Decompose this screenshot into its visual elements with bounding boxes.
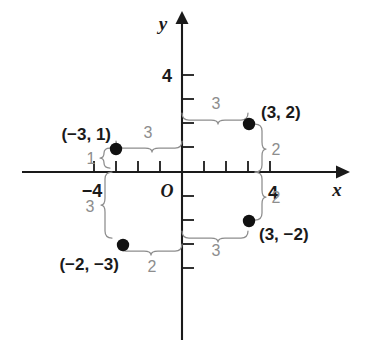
x-axis-arrow-icon bbox=[336, 166, 350, 179]
data-point-3-2[interactable] bbox=[243, 118, 255, 130]
brace-label-lower-left-3: 3 bbox=[86, 198, 95, 215]
data-point-neg3-1[interactable] bbox=[110, 143, 122, 155]
coordinate-plane-svg: y x O −4 4 4 (−3, 1) (3, 2) (−2, −3) (3,… bbox=[0, 0, 368, 353]
y-tick-label-4: 4 bbox=[162, 66, 172, 86]
brace-vertical-lower-left-3 bbox=[101, 172, 112, 238]
data-point-3-neg2[interactable] bbox=[243, 215, 255, 227]
coordinate-plane-figure: y x O −4 4 4 (−3, 1) (3, 2) (−2, −3) (3,… bbox=[0, 0, 368, 353]
point-label-neg3-1: (−3, 1) bbox=[61, 125, 111, 144]
brace-label-left-3: 3 bbox=[144, 124, 153, 141]
point-label-neg2-neg3: (−2, −3) bbox=[59, 255, 119, 274]
axes-group bbox=[22, 11, 350, 340]
brace-vertical-right-lower-2 bbox=[255, 172, 266, 220]
brace-label-right-lower-2: 2 bbox=[272, 189, 281, 206]
brace-label-bottom-2: 2 bbox=[148, 258, 157, 275]
brace-label-top-3: 3 bbox=[212, 95, 221, 112]
brace-vertical-right-upper-2 bbox=[255, 124, 266, 172]
point-label-3-2: (3, 2) bbox=[261, 103, 301, 122]
data-point-neg2-neg3[interactable] bbox=[117, 239, 129, 251]
brace-vertical-left-1 bbox=[100, 148, 110, 168]
x-axis-label: x bbox=[331, 179, 342, 200]
brace-label-bottom-right-3: 3 bbox=[212, 242, 221, 259]
brace-label-left-1: 1 bbox=[87, 150, 96, 167]
y-axis-arrow-icon bbox=[176, 11, 189, 24]
brace-label-right-upper-2: 2 bbox=[272, 141, 281, 158]
origin-label: O bbox=[161, 181, 174, 201]
point-label-3-neg2: (3, −2) bbox=[259, 225, 309, 244]
y-axis-label: y bbox=[157, 13, 168, 34]
brace-horizontal-bottom-right-3 bbox=[182, 231, 248, 242]
brace-horizontal-left-3 bbox=[116, 141, 182, 152]
